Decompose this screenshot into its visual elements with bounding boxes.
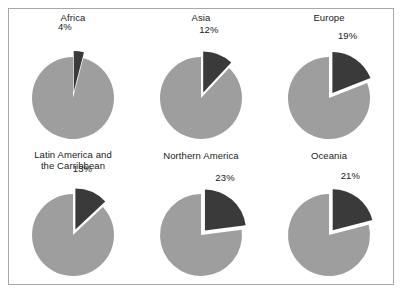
- pie-slice-remainder: [32, 57, 114, 139]
- pie-graphic: 19%: [265, 53, 393, 145]
- slice-percentage-label: 23%: [215, 172, 234, 183]
- pie-chart-cell: Latin America and the Carribbean13%: [9, 147, 137, 285]
- pie-graphic: 4%: [9, 53, 137, 145]
- figure-frame: Africa4%Asia12%Europe19%Latin America an…: [8, 8, 394, 285]
- pie-svg: [149, 190, 253, 282]
- slice-percentage-label: 13%: [73, 163, 92, 174]
- chart-title: Europe: [265, 12, 393, 24]
- chart-title: Africa: [9, 12, 137, 24]
- pie-graphic: 23%: [137, 190, 265, 282]
- slice-percentage-label: 19%: [338, 30, 357, 41]
- pie-svg: [277, 53, 381, 145]
- slice-percentage-label: 4%: [58, 21, 72, 32]
- pie-slice-exploded: [333, 189, 373, 230]
- pie-svg: [149, 53, 253, 145]
- pie-graphic: 12%: [137, 53, 265, 145]
- chart-title: Asia: [137, 12, 265, 24]
- pie-graphic: 13%: [9, 190, 137, 282]
- pie-chart-cell: Asia12%: [137, 9, 265, 147]
- pie-svg: [21, 190, 125, 282]
- pie-chart-grid: Africa4%Asia12%Europe19%Latin America an…: [9, 9, 393, 284]
- pie-svg: [21, 53, 125, 145]
- pie-chart-cell: Oceania21%: [265, 147, 393, 285]
- pie-chart-cell: Europe19%: [265, 9, 393, 147]
- chart-title: Northern America: [137, 150, 265, 162]
- pie-svg: [277, 190, 381, 282]
- pie-slice-remainder: [160, 57, 242, 139]
- slice-percentage-label: 21%: [341, 170, 360, 181]
- pie-slice-exploded: [205, 189, 246, 230]
- pie-graphic: 21%: [265, 190, 393, 282]
- chart-title: Oceania: [265, 150, 393, 162]
- pie-chart-cell: Northern America23%: [137, 147, 265, 285]
- pie-chart-cell: Africa4%: [9, 9, 137, 147]
- pie-slice-remainder: [32, 194, 114, 276]
- slice-percentage-label: 12%: [199, 24, 218, 35]
